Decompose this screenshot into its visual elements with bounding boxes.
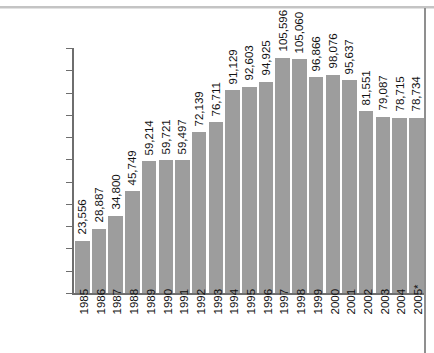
x-axis-tick-label-text: 1998 [296,300,308,315]
x-axis-tick-label-text: 1999 [313,300,325,315]
bar-value-label: 81,551 [361,70,373,105]
y-axis-tick [66,159,72,160]
x-axis-tick-label: 1989 [142,300,157,312]
x-axis-tick-label: 1986 [92,300,107,312]
bar-value-label: 105,060 [294,11,306,53]
bar-value-label: 79,087 [377,76,389,111]
x-axis-tick-label-text: 2005* [413,300,425,315]
x-axis-tick-label: 1992 [192,300,207,312]
bar-value-label: 95,637 [344,39,356,74]
x-axis-tick-label: 1988 [125,300,140,312]
bar-value-label: 76,711 [210,82,222,116]
x-axis-tick-label: 1987 [108,300,123,312]
bar [409,118,424,293]
x-axis-tick-label-text: 1990 [163,300,175,315]
bar [209,122,224,293]
y-axis-tick [66,115,72,116]
bar [242,87,257,293]
x-axis-tick-label: 2002 [359,300,374,312]
page-top-rule-secondary [0,8,434,9]
x-axis-tick-label-text: 1996 [263,300,275,315]
x-axis-tick-label: 1993 [209,300,224,312]
x-axis-tick-label-text: 1985 [79,300,91,315]
bar-value-label: 92,603 [244,46,256,81]
x-axis-tick-label-text: 2004 [396,300,408,315]
x-axis-tick-label-text: 1988 [129,300,141,315]
x-axis-tick-label: 1985 [75,300,90,312]
x-axis-tick-label-text: 2003 [380,300,392,315]
bar [75,241,90,293]
y-axis-tick [66,271,72,272]
bar [326,75,341,293]
x-axis-tick-label: 2004 [392,300,407,312]
x-axis-tick-label-text: 2000 [330,300,342,315]
x-axis-tick-label: 1990 [159,300,174,312]
bar-value-label: 72,139 [194,91,206,126]
y-axis-line [72,48,74,293]
x-axis-tick-label-text: 1987 [112,300,124,315]
bar [376,117,391,293]
x-axis-tick-label-text: 1995 [246,300,258,315]
bar [309,77,324,293]
bar-value-label: 34,800 [110,174,122,209]
y-axis-tick [66,137,72,138]
y-axis-tick [66,293,72,294]
x-axis-tick-label: 1995 [242,300,257,312]
x-axis-tick-label-text: 2002 [363,300,375,315]
bar-value-label: 28,887 [93,187,105,222]
x-axis-tick-label: 2000 [326,300,341,312]
x-axis-tick-label-text: 1994 [229,300,241,315]
bar-value-label: 91,129 [227,49,239,84]
bar-value-label: 78,734 [411,76,423,111]
x-axis-tick-label: 1997 [275,300,290,312]
bar [159,160,174,293]
bar [275,58,290,293]
bar [192,132,207,293]
bar-value-label: 23,556 [77,199,89,234]
bar-value-label: 105,596 [277,10,289,52]
x-axis-tick-label: 2003 [376,300,391,312]
plot-area: 010,00020,00030,00040,00050,00060,00070,… [72,48,424,293]
bar [359,111,374,293]
y-axis-tick [66,248,72,249]
bar [392,118,407,293]
y-axis-tick [66,48,72,49]
bar-value-label: 78,715 [394,77,406,112]
x-axis-tick-label-text: 1986 [96,300,108,315]
y-axis-tick [66,70,72,71]
bar [142,161,157,293]
bar-value-label: 96,866 [311,36,323,71]
bar-value-label: 59,497 [177,119,189,154]
bar [259,82,274,293]
bar-value-label: 45,749 [127,150,139,185]
x-axis-tick-label: 1991 [175,300,190,312]
x-axis-tick-label: 1998 [292,300,307,312]
x-axis-tick-label-text: 2001 [346,300,358,315]
x-axis-tick-label-text: 1997 [279,300,291,315]
x-axis-tick-label-text: 1992 [196,300,208,315]
bar [292,59,307,293]
bar-value-label: 94,925 [260,40,272,75]
y-axis-tick [66,182,72,183]
bar-chart-figure: 010,00020,00030,00040,00050,00060,00070,… [0,0,434,353]
x-axis-tick-label: 1994 [225,300,240,312]
bar [225,90,240,293]
x-axis-tick-label: 2001 [342,300,357,312]
x-axis-tick-label-text: 1991 [179,300,191,315]
x-axis-tick-label: 1999 [309,300,324,312]
bar-value-label: 98,076 [327,33,339,68]
bar [342,80,357,293]
bar-value-label: 59,214 [144,120,156,155]
bar [92,229,107,293]
x-axis-tick-label-text: 1993 [213,300,225,315]
bar [125,191,140,293]
x-axis-tick-label-text: 1989 [146,300,158,315]
bar-value-label: 59,721 [160,119,172,154]
y-axis-tick [66,93,72,94]
x-axis-tick-label: 2005* [409,300,424,312]
bar [108,216,123,294]
y-axis-tick [66,204,72,205]
bar [175,160,190,293]
y-axis-tick [66,226,72,227]
x-axis-tick-label: 1996 [259,300,274,312]
